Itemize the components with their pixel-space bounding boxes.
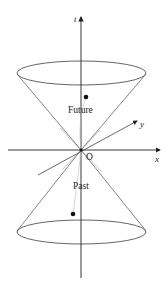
origin-label: O bbox=[86, 152, 93, 162]
future-label: Future bbox=[68, 105, 93, 115]
y-axis-label: y bbox=[139, 119, 144, 129]
past-cone bbox=[17, 150, 146, 244]
x-axis-label: x bbox=[154, 154, 159, 164]
future-cone-rim bbox=[17, 61, 146, 85]
future-event-dot bbox=[84, 95, 89, 100]
light-cone-diagram: t x y O Future Past bbox=[0, 0, 168, 292]
past-event-dot bbox=[71, 212, 76, 217]
origin-dot bbox=[80, 149, 83, 152]
past-cone-rim bbox=[17, 220, 146, 244]
t-axis-label: t bbox=[74, 14, 77, 24]
past-label: Past bbox=[73, 181, 89, 191]
y-axis bbox=[38, 121, 137, 175]
